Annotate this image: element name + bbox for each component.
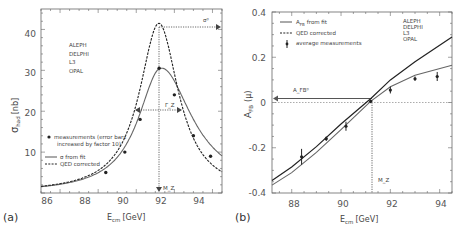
ytick-label: 20: [25, 108, 37, 118]
measurement-point: [344, 125, 347, 128]
afb0-arrow-icon: [273, 96, 278, 102]
experiment-label: OPAL: [403, 36, 418, 42]
xtick-label: 94: [193, 196, 205, 206]
ytick-label: 0: [260, 98, 266, 108]
figure: 10 20 30 40 86 88 90 92 94 Ecm[GeV] σhad…: [0, 0, 461, 231]
experiment-label: ALEPH: [69, 42, 87, 48]
fit-curve: [41, 68, 222, 187]
xtick-label: 88: [288, 199, 300, 209]
x-axis-label: Ecm[GeV]: [340, 215, 378, 225]
ytick-label: 40: [25, 29, 37, 39]
x-axis-label: Ecm[GeV]: [107, 213, 145, 223]
measurement-point: [325, 137, 328, 140]
legend-label: increased by factor 10): [57, 141, 121, 148]
panel-label-b: (b): [235, 211, 251, 224]
xtick-label: 88: [79, 196, 91, 206]
legend-marker-measurement: [47, 135, 50, 138]
ytick-label: -0.4: [248, 188, 266, 198]
legend-label: σ from fit: [60, 154, 86, 160]
measurement-point: [389, 88, 392, 91]
y-axis-label: σhad[nb]: [9, 98, 21, 133]
measurement-point: [413, 77, 416, 80]
y-axis-label: AFB(μ): [243, 91, 254, 118]
measurement-point: [436, 75, 439, 78]
xtick-label: 92: [386, 199, 397, 209]
gamma-right-arrow-icon: [177, 107, 182, 113]
measurement-point: [157, 67, 160, 70]
ytick-label: 30: [25, 68, 37, 78]
ytick-label: 0.2: [252, 53, 266, 63]
xtick-label: 90: [337, 199, 349, 209]
xtick-label: 86: [41, 196, 53, 206]
mz-annotation: M_Z: [378, 177, 389, 184]
panel-label-a: (a): [3, 211, 18, 224]
fit-curve: [272, 65, 452, 185]
legend-label: QED corrected: [60, 161, 100, 167]
gamma-annotation: Γ_Z: [165, 102, 175, 109]
ytick-label: 10: [25, 148, 37, 158]
ytick-label: -0.2: [248, 143, 266, 153]
legend-a: measurements (error bars increased by fa…: [45, 134, 126, 167]
panel-a: 10 20 30 40 86 88 90 92 94 Ecm[GeV] σhad…: [3, 9, 222, 224]
legend-marker-measurement: [286, 43, 289, 46]
panel-b: 0.4 0.2 0 -0.2 -0.4 88 90 92 94 Ecm[GeV]…: [235, 8, 452, 225]
afb0-annotation: A_FB⁰: [293, 87, 309, 94]
measurement-point: [104, 171, 107, 174]
legend-label: average measurements: [296, 40, 362, 47]
experiment-label: OPAL: [69, 68, 84, 74]
qed-curve: [272, 37, 452, 181]
measurement-point: [300, 155, 303, 158]
experiment-label: L3: [69, 59, 76, 65]
legend-label: measurements (error bars: [54, 134, 126, 140]
xtick-label: 94: [435, 199, 447, 209]
measurement-point: [123, 150, 126, 153]
mz-arrow-icon: [156, 187, 162, 192]
measurement-point: [369, 100, 372, 103]
data-points-b: [300, 72, 439, 165]
data-points-a: [104, 67, 212, 175]
measurement-point: [173, 93, 176, 96]
sigma0-arrow-icon: [216, 24, 221, 30]
legend-b: AFBfrom fit QED corrected average measur…: [280, 19, 362, 48]
ytick-label: 0.4: [252, 8, 267, 18]
legend-label: QED corrected: [296, 30, 336, 36]
xtick-label: 90: [117, 196, 129, 206]
measurement-point: [138, 118, 141, 121]
mz-annotation: M_Z: [163, 185, 174, 192]
measurement-point: [192, 134, 195, 137]
experiment-label: DELPHI: [69, 51, 89, 57]
sigma0-annotation: σ⁰: [203, 17, 209, 23]
xtick-label: 92: [155, 196, 166, 206]
measurement-point: [209, 155, 212, 158]
legend-label: AFBfrom fit: [296, 19, 328, 27]
